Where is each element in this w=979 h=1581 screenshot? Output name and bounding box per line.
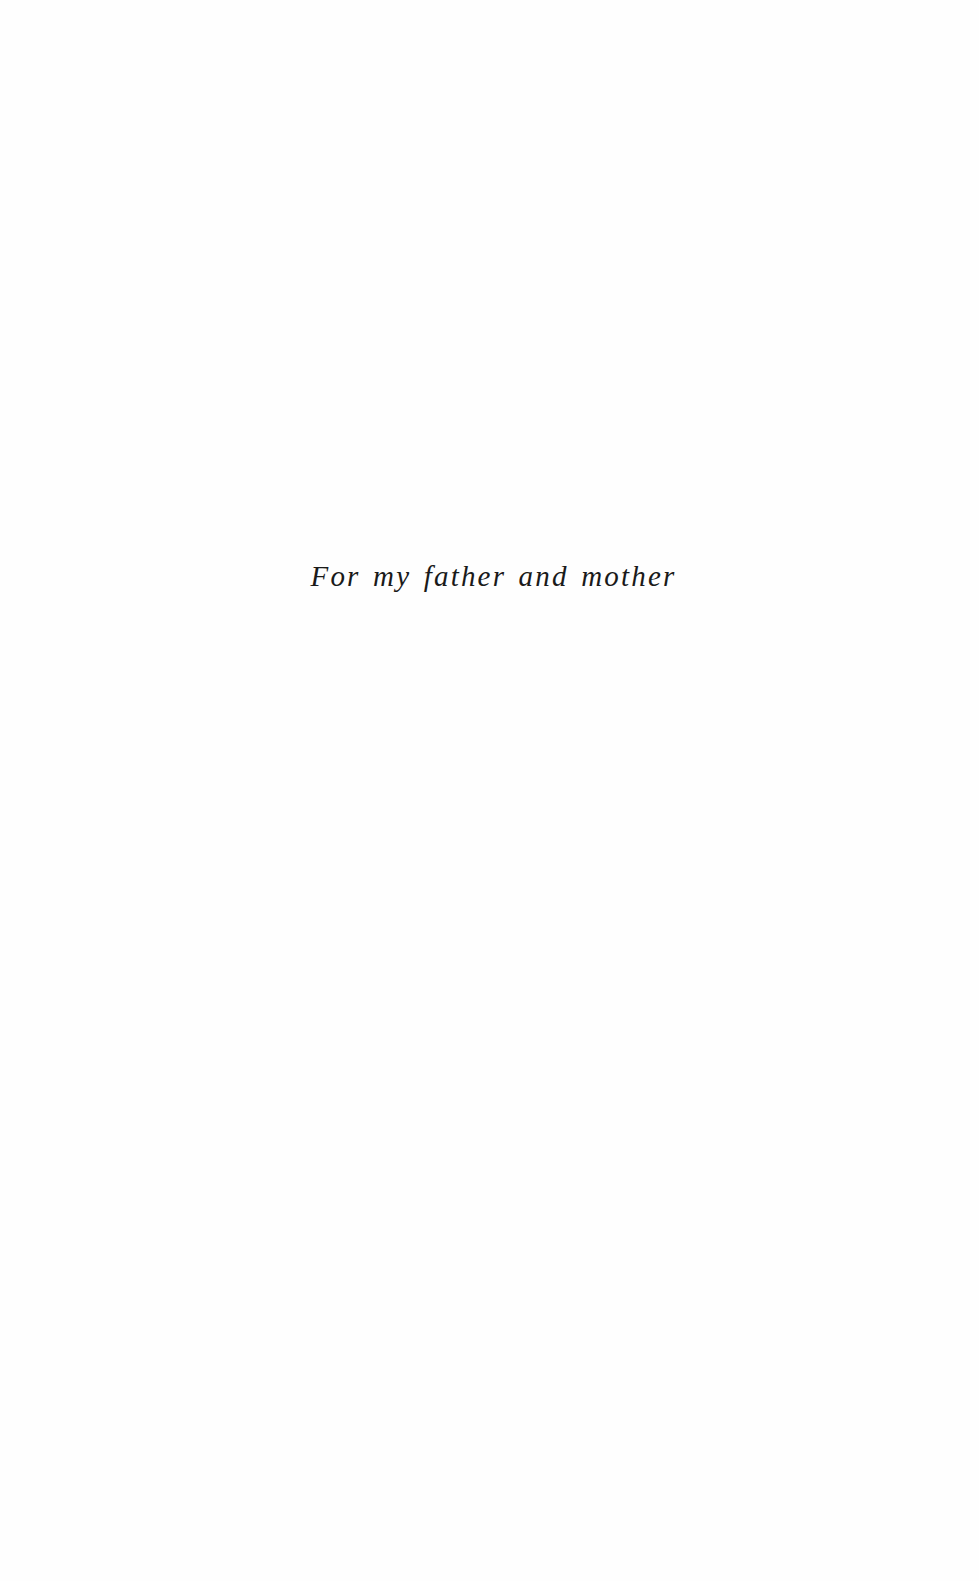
book-page: For my father and mother <box>0 0 979 1581</box>
dedication-text: For my father and mother <box>0 556 979 596</box>
